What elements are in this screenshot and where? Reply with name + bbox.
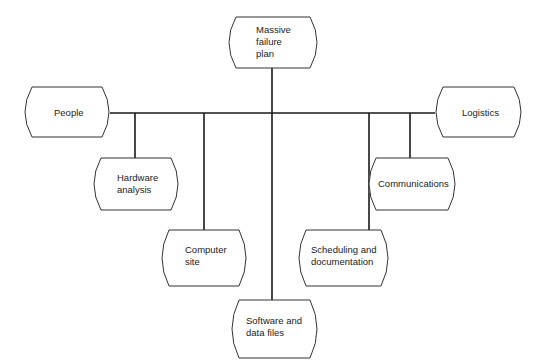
node-label-line: Computer bbox=[185, 244, 227, 255]
node-scheduling-and-documentation: Scheduling and documentation bbox=[299, 230, 388, 286]
node-label-line: analysis bbox=[117, 184, 152, 195]
node-people: People bbox=[25, 87, 109, 137]
failure-plan-diagram: Massive failure plan People Logistics Ha… bbox=[0, 0, 543, 363]
node-label-line: Scheduling and bbox=[311, 244, 377, 255]
node-label-line: People bbox=[54, 107, 84, 118]
node-label-line: Massive bbox=[256, 24, 291, 35]
node-communications: Communications bbox=[369, 158, 455, 210]
node-label-line: Hardware bbox=[117, 172, 158, 183]
node-label-line: Software and bbox=[246, 315, 302, 326]
node-computer-site: Computer site bbox=[162, 230, 246, 286]
node-hardware-analysis: Hardware analysis bbox=[94, 158, 178, 210]
node-label-line: site bbox=[185, 256, 200, 267]
node-label-line: failure bbox=[256, 36, 282, 47]
node-label-line: documentation bbox=[311, 256, 373, 267]
node-label-line: data files bbox=[246, 327, 284, 338]
node-label-line: Logistics bbox=[462, 107, 499, 118]
node-label-line: plan bbox=[256, 48, 274, 59]
node-logistics: Logistics bbox=[436, 87, 521, 137]
node-massive-failure-plan: Massive failure plan bbox=[229, 17, 317, 68]
node-software-and-data-files: Software and data files bbox=[232, 300, 317, 358]
node-label-line: Communications bbox=[378, 178, 449, 189]
